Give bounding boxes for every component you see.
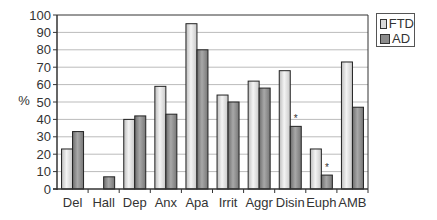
y-axis-label: %: [18, 93, 30, 108]
bar-ftd-euph: [310, 149, 321, 189]
significance-asterisk: *: [325, 162, 329, 173]
y-tick-label: 60: [37, 77, 51, 92]
bar-ad-aggr: [259, 88, 270, 189]
bar-chart: 0102030405060708090100%DelHallDepAnxApaI…: [0, 0, 437, 220]
bar-ad-irrit: [228, 102, 239, 189]
y-tick-label: 40: [37, 112, 51, 127]
y-tick-label: 0: [44, 182, 51, 197]
bar-ad-euph: [321, 175, 332, 189]
bar-ftd-aggr: [248, 81, 259, 189]
bar-ad-apa: [197, 50, 208, 189]
bar-ftd-dep: [124, 119, 135, 189]
y-tick-label: 20: [37, 147, 51, 162]
y-tick-label: 80: [37, 42, 51, 57]
y-tick-label: 30: [37, 129, 51, 144]
y-tick-label: 50: [37, 95, 51, 110]
bar-ftd-anx: [155, 86, 166, 189]
bar-ftd-apa: [186, 24, 197, 189]
legend-item-ftd: FTD: [380, 16, 414, 31]
x-tick-label: Dep: [123, 195, 147, 210]
legend: FTD AD: [376, 13, 415, 47]
y-tick-label: 90: [37, 25, 51, 40]
x-tick-label: Disin: [276, 195, 305, 210]
bar-ad-anx: [166, 114, 177, 189]
bar-ftd-disin: [279, 71, 290, 189]
x-tick-label: Irrit: [219, 195, 238, 210]
legend-swatch-ad: [380, 34, 390, 44]
bar-ftd-del: [62, 149, 73, 189]
x-tick-label: Apa: [185, 195, 209, 210]
bar-ad-dep: [135, 116, 146, 189]
x-tick-label: Euph: [306, 195, 336, 210]
y-tick-label: 70: [37, 60, 51, 75]
x-tick-label: Anx: [155, 195, 178, 210]
legend-swatch-ftd: [380, 19, 387, 29]
legend-label-ftd: FTD: [389, 16, 414, 31]
bar-ftd-amb: [341, 62, 352, 189]
bar-ad-amb: [352, 107, 363, 189]
y-tick-label: 10: [37, 164, 51, 179]
bar-ftd-irrit: [217, 95, 228, 189]
legend-label-ad: AD: [392, 31, 410, 46]
legend-item-ad: AD: [380, 31, 414, 46]
bar-ad-del: [73, 132, 84, 189]
bar-ad-hall: [104, 177, 115, 189]
bar-ad-disin: [290, 126, 301, 189]
x-tick-label: AMB: [338, 195, 366, 210]
y-tick-label: 100: [29, 8, 51, 23]
x-tick-label: Del: [63, 195, 83, 210]
x-tick-label: Aggr: [245, 195, 273, 210]
x-tick-label: Hall: [92, 195, 115, 210]
significance-asterisk: *: [294, 113, 298, 124]
